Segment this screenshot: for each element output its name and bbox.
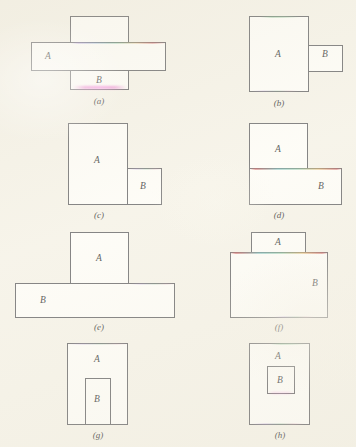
panel-e: A B (e) [0,224,178,336]
panel-h-label-a: A [275,352,281,362]
panel-d-label-b: B [318,182,324,192]
panel-f-label-a: A [275,238,281,248]
panel-g-label-a: A [94,355,100,365]
panel-f-caption: (f) [264,323,294,332]
panel-h-label-b: B [277,376,283,386]
panel-e-label-a: A [96,254,102,264]
panel-f: A B (f) [178,224,356,336]
panel-g-label-b: B [94,395,100,405]
panel-c-label-a: A [94,156,100,166]
panel-a-rect-a [31,42,166,71]
panel-d-rect-b [249,168,342,205]
panel-a-label-b: B [96,76,102,86]
panel-e-caption: (e) [84,323,114,332]
panel-d-label-a: A [275,145,281,155]
panel-c-label-b: B [140,182,146,192]
panel-e-label-b: B [40,296,46,306]
panel-g-caption: (g) [83,431,113,440]
panel-b-label-b: B [322,50,328,60]
panel-h: A B (h) [178,336,356,447]
panel-g: A B (g) [0,336,178,447]
panel-c: A B (c) [0,112,178,224]
panel-h-caption: (h) [265,431,295,440]
panel-b-label-a: A [275,50,281,60]
panel-a-label-a: A [45,52,51,62]
panel-f-label-b: B [312,279,318,289]
panel-d-caption: (d) [264,211,294,220]
panel-a-caption: (a) [84,97,114,106]
panel-e-rect-b [15,283,175,318]
panel-b: A B (b) [178,0,356,112]
figure-panel-grid: A B (a) A B (b) A B (c) A B (d) A B (e) [0,0,356,447]
panel-a: A B (a) [0,0,178,112]
panel-c-caption: (c) [84,211,114,220]
panel-b-caption: (b) [264,99,294,108]
panel-d: A B (d) [178,112,356,224]
